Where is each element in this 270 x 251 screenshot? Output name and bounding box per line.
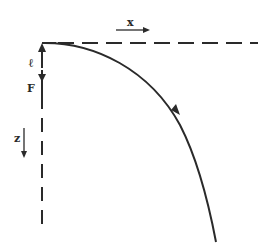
z-axis-label: z <box>14 132 20 145</box>
diagram-svg: x ℓ F z <box>0 0 270 251</box>
length-arrowhead-up-icon <box>38 43 46 52</box>
x-arrowhead-right-icon <box>143 27 150 33</box>
length-label: ℓ <box>28 56 34 70</box>
force-label: F <box>27 82 35 95</box>
z-arrowhead-down-icon <box>21 151 27 158</box>
curved-trajectory <box>42 43 216 242</box>
diagram-canvas: x ℓ F z <box>0 0 270 251</box>
x-axis-label: x <box>127 16 134 29</box>
force-arrowhead-down-icon <box>38 74 46 82</box>
